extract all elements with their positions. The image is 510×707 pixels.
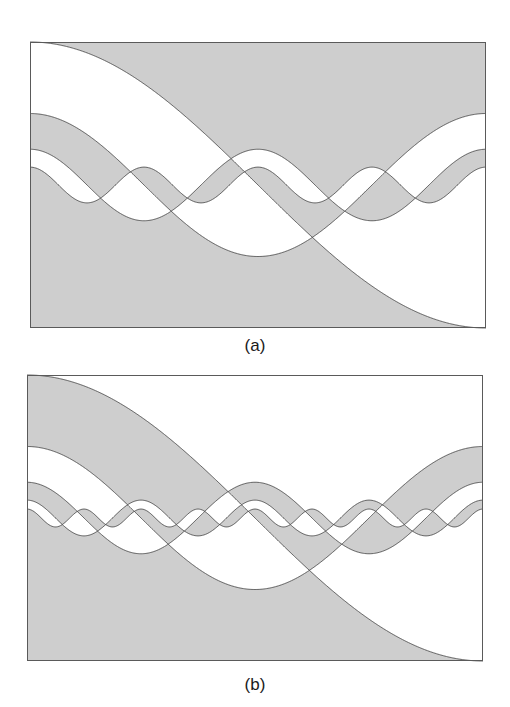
curve-1 [27,375,483,661]
panel-a [30,42,486,328]
panel-b-caption: (b) [215,675,295,695]
panel-a-caption: (a) [215,336,295,356]
panel-b-curves [27,375,483,661]
curve-1 [30,42,486,328]
panel-a-curves [30,42,486,328]
panel-b [27,375,483,661]
